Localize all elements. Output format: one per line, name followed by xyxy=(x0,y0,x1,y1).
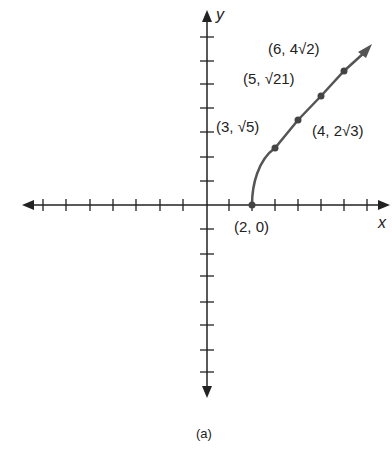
x-axis-left-arrow-icon xyxy=(22,200,34,210)
point-label-5: (5, √21) xyxy=(243,70,295,87)
figure-caption: (a) xyxy=(196,426,212,441)
x-axis-label: x xyxy=(378,214,386,232)
point-label-6: (6, 4√2) xyxy=(268,40,320,57)
y-axis-up-arrow-icon xyxy=(202,10,212,22)
x-axis-right-arrow-icon xyxy=(378,200,390,210)
graph-canvas xyxy=(0,0,392,460)
y-axis-down-arrow-icon xyxy=(202,386,212,398)
y-axis-label: y xyxy=(216,6,224,24)
point-label-2: (2, 0) xyxy=(234,218,269,235)
point-label-3: (3, √5) xyxy=(216,118,259,135)
point-label-4: (4, 2√3) xyxy=(312,122,364,139)
